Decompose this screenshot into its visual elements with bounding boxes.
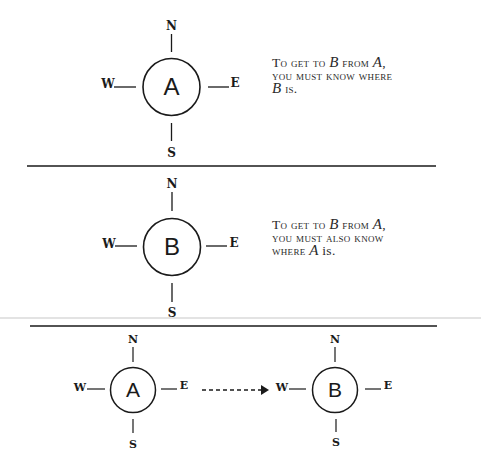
east-label: E bbox=[229, 236, 238, 250]
node-a-label: A bbox=[126, 378, 140, 401]
caption-panel-1: To get to B from A, you must know where … bbox=[272, 56, 392, 95]
caption-panel-2: To get to B from A, you must also know w… bbox=[272, 218, 386, 257]
north-label: N bbox=[128, 333, 138, 346]
node-b-label: B bbox=[328, 378, 342, 401]
north-label: N bbox=[166, 19, 177, 33]
dashed-arrow-a-to-b bbox=[202, 385, 269, 395]
west-label: W bbox=[275, 381, 289, 394]
node-b-label: B bbox=[164, 233, 180, 260]
node-a-label: A bbox=[163, 73, 179, 100]
caption-variable: A bbox=[309, 242, 318, 258]
panel-3-compass-a: N A S W E bbox=[73, 333, 188, 451]
south-label: S bbox=[129, 438, 137, 451]
west-label: W bbox=[100, 77, 115, 91]
panel-2-compass-b: N B S W E bbox=[101, 177, 238, 320]
compass-diagram: N A S W E N B S W E N A S W E bbox=[0, 0, 481, 469]
east-label: E bbox=[180, 379, 188, 392]
caption-text: is. bbox=[281, 81, 297, 96]
caption-line-3: B is. bbox=[272, 82, 392, 95]
caption-line-3: where A is. bbox=[272, 244, 386, 257]
south-label: S bbox=[167, 146, 176, 160]
arrowhead-icon bbox=[261, 385, 269, 395]
caption-text: is. bbox=[319, 243, 336, 258]
panel-1-compass-a: N A S W E bbox=[100, 19, 239, 160]
panel-3-compass-b: N B S W E bbox=[275, 333, 392, 449]
north-label: N bbox=[167, 177, 178, 191]
west-label: W bbox=[101, 237, 116, 251]
caption-text: where bbox=[272, 243, 309, 258]
east-label: E bbox=[384, 379, 392, 392]
south-label: S bbox=[332, 436, 340, 449]
east-label: E bbox=[230, 76, 239, 90]
north-label: N bbox=[330, 333, 340, 346]
west-label: W bbox=[73, 381, 87, 394]
